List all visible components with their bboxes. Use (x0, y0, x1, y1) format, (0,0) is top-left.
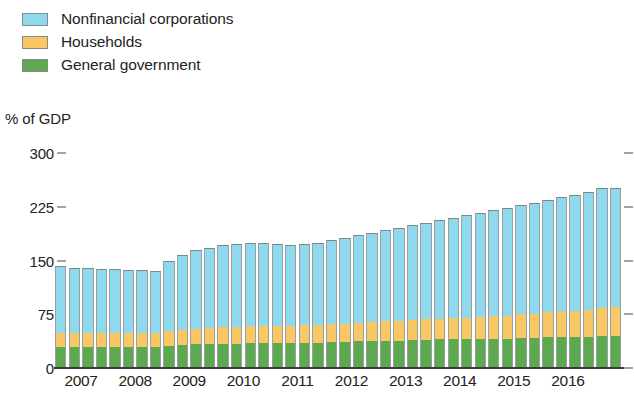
bar-2012Q4[interactable] (366, 233, 377, 368)
legend-item-households: Households (22, 31, 422, 53)
bar-segment-hh-2011Q3 (299, 325, 310, 343)
bar-2014Q2[interactable] (448, 218, 459, 368)
bar-segment-nfc-2007Q1 (55, 266, 66, 333)
bar-2013Q4[interactable] (420, 223, 431, 368)
bar-segment-gov-2009Q1 (163, 346, 174, 368)
bar-2011Q4[interactable] (312, 243, 323, 368)
x-tick-label-2009: 2009 (173, 372, 206, 390)
bar-2015Q3[interactable] (515, 205, 526, 368)
bar-2009Q2[interactable] (177, 255, 188, 368)
bar-segment-hh-2014Q4 (475, 317, 486, 339)
bar-2009Q3[interactable] (190, 250, 201, 368)
stacked-bar-chart-figure: Nonfinancial corporations Households Gen… (0, 0, 634, 394)
bar-2011Q1[interactable] (272, 244, 283, 368)
y-tick-label-150: 150 (0, 252, 54, 269)
bar-segment-hh-2010Q1 (217, 327, 228, 343)
bar-2010Q3[interactable] (245, 243, 256, 368)
plot-area: 075150225300 (0, 145, 634, 377)
bar-2008Q3[interactable] (136, 270, 147, 368)
x-tick-label-2016: 2016 (551, 372, 584, 390)
bar-2016Q2[interactable] (556, 197, 567, 368)
y-tick-label-300: 300 (0, 145, 54, 162)
bar-segment-gov-2009Q4 (204, 344, 215, 368)
bar-2013Q2[interactable] (393, 228, 404, 368)
bar-2010Q1[interactable] (217, 245, 228, 368)
bar-segment-gov-2010Q1 (217, 344, 228, 368)
bar-2007Q3[interactable] (82, 268, 93, 368)
bar-segment-hh-2014Q3 (461, 318, 472, 340)
bar-segment-gov-2015Q3 (515, 338, 526, 368)
bar-segment-nfc-2014Q1 (434, 220, 445, 319)
bar-segment-nfc-2011Q3 (299, 244, 310, 325)
bar-2009Q1[interactable] (163, 261, 174, 368)
bar-segment-hh-2011Q4 (312, 325, 323, 343)
bar-segment-gov-2010Q3 (245, 343, 256, 368)
bar-2007Q2[interactable] (69, 268, 80, 368)
bar-segment-nfc-2014Q4 (475, 213, 486, 317)
bar-2012Q1[interactable] (326, 240, 337, 368)
bar-2008Q1[interactable] (109, 269, 120, 368)
bar-2008Q2[interactable] (123, 270, 134, 368)
bar-segment-gov-2014Q2 (448, 339, 459, 368)
bar-segment-nfc-2012Q1 (326, 240, 337, 324)
bar-2016Q1[interactable] (542, 200, 553, 368)
bar-2016Q4[interactable] (583, 192, 594, 368)
bar-segment-hh-2012Q4 (366, 322, 377, 341)
bar-2015Q1[interactable] (488, 210, 499, 368)
bar-2014Q1[interactable] (434, 220, 445, 368)
bar-segment-hh-2011Q2 (285, 326, 296, 343)
bar-2011Q3[interactable] (299, 244, 310, 368)
bar-segment-nfc-2015Q1 (488, 210, 499, 316)
bar-segment-hh-2010Q2 (231, 327, 242, 343)
bar-2007Q4[interactable] (96, 269, 107, 368)
bar-segment-nfc-2015Q3 (515, 205, 526, 314)
bar-segment-nfc-2011Q1 (272, 244, 283, 326)
bar-segment-gov-2009Q2 (177, 345, 188, 368)
bar-segment-nfc-2012Q3 (353, 235, 364, 322)
bar-2017Q2[interactable] (610, 188, 621, 368)
bar-segment-hh-2017Q1 (596, 308, 607, 337)
bar-segment-hh-2016Q4 (583, 310, 594, 337)
bar-segment-gov-2010Q4 (258, 343, 269, 368)
bar-2015Q2[interactable] (502, 208, 513, 368)
bar-segment-gov-2008Q4 (150, 347, 161, 368)
x-tick-label-2014: 2014 (443, 372, 476, 390)
bar-segment-hh-2009Q2 (177, 330, 188, 345)
y-tick-mark-right-0 (624, 368, 633, 369)
bar-2014Q3[interactable] (461, 215, 472, 368)
bar-segment-gov-2012Q1 (326, 342, 337, 368)
bar-2011Q2[interactable] (285, 245, 296, 368)
bar-2009Q4[interactable] (204, 248, 215, 368)
bar-2017Q1[interactable] (596, 188, 607, 368)
bar-segment-gov-2013Q3 (407, 340, 418, 368)
bar-2012Q2[interactable] (339, 238, 350, 368)
bar-segment-nfc-2009Q2 (177, 255, 188, 330)
bar-segment-gov-2014Q1 (434, 339, 445, 368)
bar-segment-nfc-2013Q2 (393, 228, 404, 320)
bar-segment-nfc-2015Q4 (529, 203, 540, 313)
bar-segment-hh-2014Q2 (448, 318, 459, 340)
bar-2013Q3[interactable] (407, 225, 418, 368)
bar-2010Q2[interactable] (231, 244, 242, 368)
bar-2014Q4[interactable] (475, 213, 486, 368)
bar-segment-nfc-2013Q4 (420, 223, 431, 320)
bar-2013Q1[interactable] (380, 230, 391, 368)
bar-2015Q4[interactable] (529, 203, 540, 368)
bar-series-container (54, 153, 622, 368)
bar-segment-gov-2011Q4 (312, 343, 323, 368)
bar-segment-gov-2016Q3 (569, 337, 580, 368)
legend-label-nonfinancial-corporations: Nonfinancial corporations (61, 10, 233, 28)
bar-segment-hh-2015Q2 (502, 316, 513, 339)
bar-2016Q3[interactable] (569, 195, 580, 368)
bar-2012Q3[interactable] (353, 235, 364, 368)
bar-segment-gov-2015Q2 (502, 339, 513, 368)
bar-segment-nfc-2009Q4 (204, 248, 215, 328)
bar-segment-nfc-2010Q1 (217, 245, 228, 327)
bar-2007Q1[interactable] (55, 266, 66, 368)
bar-2010Q4[interactable] (258, 243, 269, 368)
bar-2008Q4[interactable] (150, 271, 161, 368)
bar-segment-gov-2014Q3 (461, 339, 472, 368)
bar-segment-nfc-2008Q4 (150, 271, 161, 333)
bar-segment-hh-2009Q3 (190, 329, 201, 345)
bar-segment-gov-2013Q1 (380, 341, 391, 368)
